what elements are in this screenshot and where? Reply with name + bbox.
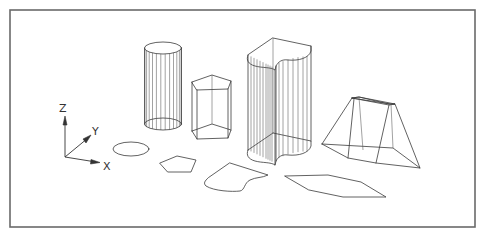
- drawing-canvas: Z Y X: [0, 0, 490, 243]
- frustum-bottom-face: [322, 144, 420, 168]
- flat-ellipse: [113, 142, 149, 156]
- frustum-hidden-edge: [391, 104, 393, 148]
- prism-top-face: [192, 75, 231, 90]
- pentagonal-prism-solid: [192, 75, 231, 139]
- flat-hexagon-polygon: [285, 175, 386, 197]
- y-axis-label: Y: [91, 125, 99, 138]
- flat-pentagon: [160, 156, 196, 172]
- z-axis-label: Z: [59, 102, 67, 115]
- prism-bottom-edges: [192, 124, 231, 139]
- cylinder-solid: [145, 42, 182, 130]
- z-arrow-icon: [63, 116, 67, 125]
- drawing-frame: [10, 10, 475, 227]
- frustum-solid: [322, 97, 420, 168]
- extrusion-bottom-edge: [248, 133, 273, 150]
- frustum-edge: [376, 105, 389, 163]
- extrusion-generators: [251, 56, 307, 161]
- extruded-region-solid: [247, 38, 311, 165]
- frustum-edge: [322, 98, 352, 144]
- frustum-hidden-edge: [359, 97, 363, 150]
- cylinder-bottom-ellipse: [145, 118, 182, 130]
- cylinder-top-ellipse: [145, 42, 182, 54]
- ucs-icon: Z Y X: [59, 102, 111, 173]
- y-arrow-icon: [83, 135, 91, 143]
- frustum-edge: [348, 99, 354, 158]
- x-arrow-icon: [91, 160, 101, 165]
- x-axis-label: X: [103, 160, 111, 173]
- flat-region-outline: [205, 163, 268, 191]
